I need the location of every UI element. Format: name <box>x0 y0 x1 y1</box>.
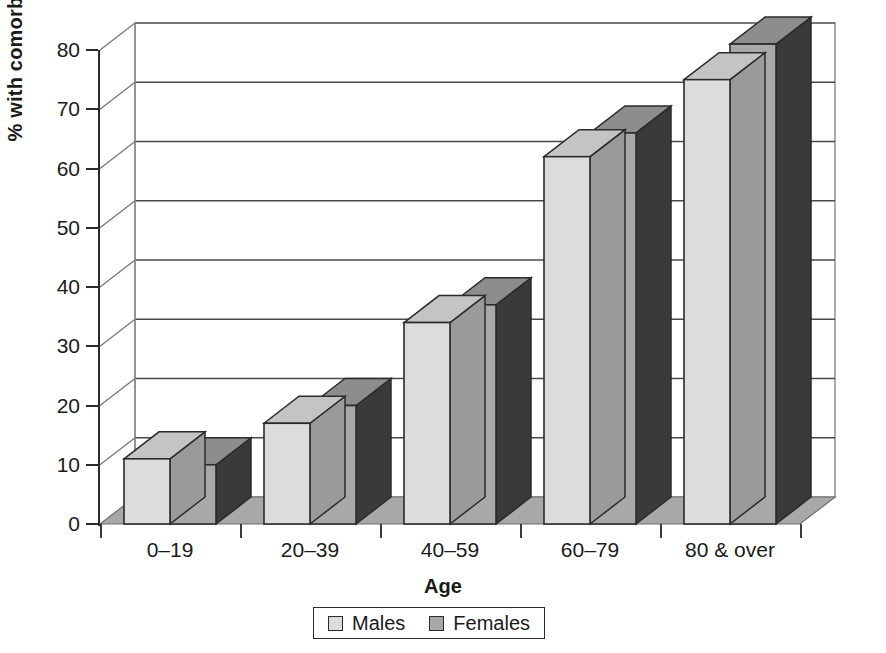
bar-males-2 <box>404 296 485 524</box>
legend-item-females[interactable]: Females <box>429 613 530 633</box>
bar-males-3 <box>544 130 625 524</box>
legend-item-males[interactable]: Males <box>328 613 405 633</box>
y-tick <box>86 168 98 170</box>
bar-males-0 <box>124 432 205 524</box>
y-axis-line <box>98 50 100 526</box>
legend-label: Males <box>352 613 405 633</box>
bar-females-0 <box>170 438 251 524</box>
x-tick <box>380 524 382 538</box>
y-tick-label: 70 <box>14 98 80 119</box>
chart-legend: MalesFemales <box>313 607 545 639</box>
x-tick <box>100 524 102 538</box>
y-tick <box>86 405 98 407</box>
y-tick-label: 30 <box>14 335 80 356</box>
y-tick <box>86 523 98 525</box>
y-tick <box>86 108 98 110</box>
y-axis-title: % with comorbidity <box>4 0 27 168</box>
bar-females-4 <box>730 17 811 524</box>
x-tick <box>520 524 522 538</box>
bar-females-2 <box>450 278 531 524</box>
legend-label: Females <box>453 613 530 633</box>
y-tick <box>86 464 98 466</box>
legend-swatch-icon <box>328 616 343 631</box>
y-tick-label: 10 <box>14 454 80 475</box>
x-tick-label-0: 0–19 <box>90 538 250 562</box>
x-tick <box>660 524 662 538</box>
x-tick <box>800 524 802 538</box>
bar-females-1 <box>310 379 391 525</box>
y-tick <box>86 227 98 229</box>
legend-swatch-icon <box>429 616 444 631</box>
x-axis-title: Age <box>0 575 886 598</box>
bar-males-4 <box>684 53 765 524</box>
y-tick-label: 40 <box>14 276 80 297</box>
y-tick-label: 80 <box>14 39 80 60</box>
x-tick-label-3: 60–79 <box>510 538 670 562</box>
y-tick <box>86 49 98 51</box>
x-tick-label-2: 40–59 <box>370 538 530 562</box>
bar-males-1 <box>264 396 345 524</box>
y-tick-label: 20 <box>14 395 80 416</box>
y-tick <box>86 345 98 347</box>
x-tick-label-1: 20–39 <box>230 538 390 562</box>
y-tick-label: 60 <box>14 158 80 179</box>
y-tick-label: 0 <box>14 513 80 534</box>
x-tick-label-4: 80 & over <box>650 538 810 562</box>
chart-figure: % with comorbidity 01020304050607080 0–1… <box>0 0 886 653</box>
bar-females-3 <box>590 106 671 524</box>
x-tick <box>240 524 242 538</box>
y-tick <box>86 286 98 288</box>
y-tick-label: 50 <box>14 217 80 238</box>
